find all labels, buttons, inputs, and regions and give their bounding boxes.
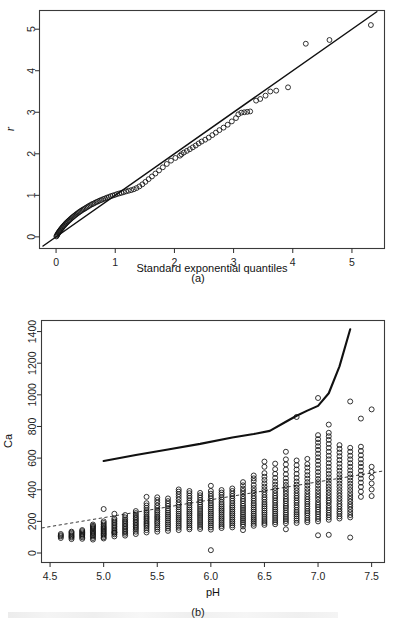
panel-b-y-tick-label: 1200 — [26, 351, 38, 375]
panel-b-y-ticks: 0200400600800100012001400 — [26, 320, 41, 556]
panel-a-x-tick-label: 1 — [112, 256, 118, 268]
data-point — [213, 130, 218, 135]
data-point — [326, 430, 331, 435]
data-point — [348, 399, 353, 404]
data-point — [369, 487, 374, 492]
data-point — [248, 109, 253, 114]
page-scan-artifact — [8, 612, 338, 618]
data-point — [208, 548, 213, 553]
data-point — [369, 407, 374, 412]
data-point — [358, 489, 363, 494]
data-point — [112, 511, 117, 516]
panel-a-tag: (a) — [191, 272, 204, 284]
data-point — [273, 467, 278, 472]
data-point — [258, 97, 263, 102]
panel-a-y-tick-label: 4 — [25, 68, 37, 74]
panel-b-y-tick-label: 1000 — [26, 383, 38, 407]
panel-a-reference-line — [43, 12, 377, 246]
data-point — [303, 41, 308, 46]
panel-a-y-tick-label: 1 — [25, 192, 37, 198]
panel-a-y-tick-label: 0 — [25, 234, 37, 240]
data-point — [294, 458, 299, 463]
panel-b-y-tick-label: 800 — [26, 418, 38, 436]
panel-b-y-tick-label: 400 — [26, 481, 38, 499]
data-point — [283, 462, 288, 467]
data-point — [101, 507, 106, 512]
data-point — [369, 464, 374, 469]
data-point — [164, 162, 169, 167]
panel-a-y-tick-label: 2 — [25, 151, 37, 157]
data-point — [173, 156, 178, 161]
data-point — [369, 494, 374, 499]
panel-b-x-tick-label: 4.5 — [43, 570, 58, 582]
panel-a-qq-plot: 012345 012345 Standard exponential quant… — [0, 0, 397, 290]
data-point — [348, 535, 353, 540]
data-point — [283, 467, 288, 472]
data-point — [146, 177, 151, 182]
data-point — [368, 23, 373, 28]
data-point — [268, 89, 273, 94]
panel-b-y-tick-label: 1400 — [26, 320, 38, 344]
panel-a-y-axis-label: r — [4, 126, 16, 131]
data-point — [286, 85, 291, 90]
panel-a-y-tick-label: 3 — [25, 109, 37, 115]
data-point — [283, 449, 288, 454]
data-point — [369, 470, 374, 475]
data-point — [369, 475, 374, 480]
data-point — [305, 456, 310, 461]
panel-a-svg: 012345 012345 Standard exponential quant… — [0, 0, 397, 290]
data-point — [273, 461, 278, 466]
panel-a-x-tick-label: 5 — [349, 256, 355, 268]
data-point — [358, 494, 363, 499]
panel-b-x-tick-label: 6.5 — [257, 570, 272, 582]
data-point — [369, 481, 374, 486]
data-point — [274, 88, 279, 93]
panel-b-x-tick-label: 5.5 — [150, 570, 165, 582]
data-point — [225, 122, 230, 127]
panel-b-y-tick-label: 200 — [26, 512, 38, 530]
figure-container: 012345 012345 Standard exponential quant… — [0, 0, 397, 624]
data-point — [316, 396, 321, 401]
data-point — [241, 480, 246, 485]
panel-a-x-tick-label: 4 — [290, 256, 296, 268]
panel-b-x-tick-label: 5.0 — [96, 570, 111, 582]
panel-b-x-axis-label: pH — [206, 586, 220, 598]
panel-b-scatter-plot: 4.55.05.56.06.57.07.5 020040060080010001… — [0, 290, 397, 624]
data-point — [210, 133, 215, 138]
panel-b-svg: 4.55.05.56.06.57.07.5 020040060080010001… — [0, 290, 397, 624]
panel-b-x-tick-label: 7.5 — [364, 570, 379, 582]
data-point — [326, 532, 331, 537]
data-point — [262, 471, 267, 476]
panel-a-tag-svg: (a) — [0, 268, 397, 290]
data-point — [262, 459, 267, 464]
panel-a-data-points — [54, 23, 373, 239]
data-point — [326, 422, 331, 427]
panel-b-x-tick-label: 7.0 — [311, 570, 326, 582]
data-point — [337, 443, 342, 448]
data-point — [229, 119, 234, 124]
data-point — [144, 494, 149, 499]
data-point — [208, 483, 213, 488]
data-point — [327, 38, 332, 43]
panel-b-y-axis-label: Ca — [2, 433, 14, 448]
panel-b-y-tick-label: 600 — [26, 449, 38, 467]
data-point — [283, 527, 288, 532]
panel-a-y-ticks: 012345 — [25, 26, 39, 240]
panel-b-y-tick-label: 0 — [26, 550, 38, 556]
panel-b-x-ticks: 4.55.05.56.06.57.07.5 — [43, 563, 379, 582]
data-point — [305, 462, 310, 467]
panel-b-x-tick-label: 6.0 — [204, 570, 219, 582]
data-point — [316, 533, 321, 538]
data-point — [283, 457, 288, 462]
panel-a-x-tick-label: 0 — [53, 256, 59, 268]
data-point — [358, 416, 363, 421]
panel-a-y-tick-label: 5 — [25, 26, 37, 32]
data-point — [262, 464, 267, 469]
panel-b-upper-curve — [104, 329, 351, 461]
panel-b-data-points — [58, 396, 374, 553]
data-point — [263, 93, 268, 98]
